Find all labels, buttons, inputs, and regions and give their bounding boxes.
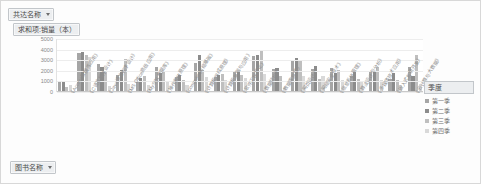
legend-rows: 第一季第二季第三季第四季 (424, 96, 474, 136)
y-axis: 500040003000200010000 (31, 39, 55, 92)
legend-field-button[interactable]: 季度 (424, 81, 474, 94)
y-axis-tick-label: 3000 (41, 57, 53, 63)
legend-item[interactable]: 第四季 (424, 126, 474, 136)
y-axis-tick-label: 4000 (41, 47, 53, 53)
value-field-label: 求和项:销量（本） (18, 25, 76, 34)
bar-group[interactable] (58, 39, 72, 92)
legend-item[interactable]: 第三季 (424, 116, 474, 126)
category-axis-labels: 《Access数据库应用》《C语言程序设计》《Java语言程序设计》《MS Of… (56, 93, 423, 143)
legend-item-label: 第二季 (432, 106, 450, 116)
plot-wrapper: 500040003000200010000 《Access数据库应用》《C语言程… (31, 39, 423, 143)
legend-item[interactable]: 第一季 (424, 96, 474, 106)
chevron-down-icon[interactable] (48, 166, 52, 169)
y-axis-tick-label: 1000 (41, 78, 53, 84)
series-field-label: 共达名称 (13, 10, 41, 19)
category-field-button[interactable]: 图书名称 (10, 161, 56, 174)
legend-swatch (425, 99, 429, 103)
y-axis-tick-label: 5000 (41, 36, 53, 42)
value-field-button[interactable]: 求和项:销量（本） (13, 23, 80, 36)
legend-item-label: 第一季 (432, 96, 450, 106)
legend-swatch (425, 109, 429, 113)
chevron-down-icon[interactable] (46, 13, 50, 16)
legend-swatch (425, 119, 429, 123)
legend-item-label: 第四季 (432, 126, 450, 136)
legend-item-label: 第三季 (432, 116, 450, 126)
legend: 季度 第一季第二季第三季第四季 (424, 81, 474, 136)
legend-field-label: 季度 (428, 83, 442, 92)
gridline (57, 50, 423, 51)
gridline (57, 39, 423, 40)
pivotchart-frame: 共达名称 求和项:销量（本） 图书名称 50004000300020001000… (0, 0, 481, 184)
legend-item[interactable]: 第二季 (424, 106, 474, 116)
y-axis-tick-label: 0 (50, 89, 53, 95)
category-field-label: 图书名称 (15, 163, 43, 172)
series-field-button[interactable]: 共达名称 (8, 8, 54, 21)
legend-swatch (425, 129, 429, 133)
y-axis-tick-label: 2000 (41, 68, 53, 74)
